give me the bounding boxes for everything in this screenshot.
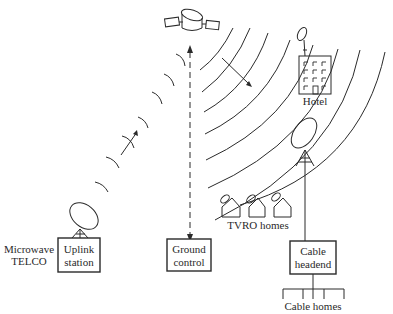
microwave-label-line1: Microwave bbox=[4, 243, 54, 255]
uplink-label-line2: station bbox=[64, 256, 94, 268]
cable-homes-label: Cable homes bbox=[284, 300, 341, 312]
uplink-station-box: Uplink station bbox=[58, 238, 100, 272]
uplink-signal-arcs bbox=[95, 54, 185, 192]
satellite-distribution-diagram: Hotel TVRO homes Uplink station bbox=[0, 0, 393, 314]
uplink-dish-icon bbox=[65, 197, 104, 238]
uplink-label-line1: Uplink bbox=[64, 243, 95, 255]
ground-control-label-line1: Ground bbox=[172, 243, 206, 255]
cable-homes-tree: Cable homes bbox=[283, 274, 344, 312]
microwave-telco-label: Microwave TELCO bbox=[4, 243, 54, 267]
broadcast-arcs bbox=[200, 28, 385, 220]
ground-control-box: Ground control bbox=[167, 239, 211, 271]
microwave-label-line2: TELCO bbox=[11, 255, 46, 267]
tvro-homes-icon: TVRO homes bbox=[219, 191, 291, 231]
satellite-icon bbox=[165, 7, 220, 31]
hotel-label: Hotel bbox=[303, 95, 327, 107]
tvro-homes-label: TVRO homes bbox=[227, 219, 288, 231]
cable-headend-label-line1: Cable bbox=[300, 245, 326, 257]
ground-control-label-line2: control bbox=[173, 256, 204, 268]
cable-headend-label-line2: headend bbox=[295, 258, 332, 270]
hotel-icon: Hotel bbox=[295, 26, 331, 107]
ground-control-link bbox=[187, 45, 193, 242]
cable-headend-box: Cable headend bbox=[290, 241, 336, 274]
